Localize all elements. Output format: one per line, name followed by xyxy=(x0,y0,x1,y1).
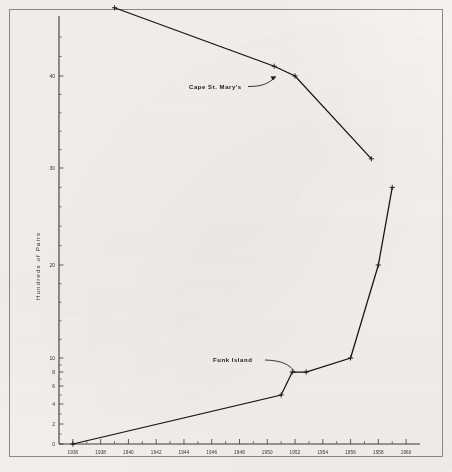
y-tick-label: 8 xyxy=(52,369,55,375)
x-tick-label: 1940 xyxy=(123,450,134,455)
y-tick-label: 6 xyxy=(52,383,55,389)
y-tick-label: 2 xyxy=(52,421,55,427)
x-tick-label: 1948 xyxy=(234,450,245,455)
y-tick-label: 4 xyxy=(52,401,55,407)
annotation-label-funk-island: Funk Island xyxy=(213,357,252,363)
x-tick-label: 1944 xyxy=(179,450,190,455)
x-tick-label: 1936 xyxy=(67,450,78,455)
x-tick-label: 1938 xyxy=(95,450,106,455)
y-tick-label: 20 xyxy=(49,262,55,268)
x-tick-label: 1942 xyxy=(151,450,162,455)
y-tick-label: 0 xyxy=(52,441,55,447)
figure-container: 0246810203040 Hundreds of Pairs 19361938… xyxy=(0,0,452,472)
x-tick-label: 1960 xyxy=(401,450,412,455)
y-tick-label: 30 xyxy=(49,165,55,171)
x-tick-label: 1950 xyxy=(262,450,273,455)
x-tick-label: 1954 xyxy=(317,450,328,455)
x-tick-label: 1956 xyxy=(345,450,356,455)
x-tick-label: 1958 xyxy=(373,450,384,455)
x-tick-label: 1952 xyxy=(290,450,301,455)
paper-background xyxy=(0,0,452,472)
line-chart: 0246810203040 Hundreds of Pairs 19361938… xyxy=(0,0,452,472)
y-tick-label: 10 xyxy=(49,355,55,361)
x-tick-label: 1946 xyxy=(206,450,217,455)
y-axis-title: Hundreds of Pairs xyxy=(34,232,41,300)
annotation-label-cape-st-marys: Cape St. Mary's xyxy=(189,84,242,90)
y-tick-label: 40 xyxy=(49,73,55,79)
